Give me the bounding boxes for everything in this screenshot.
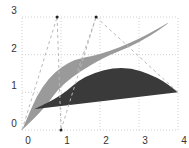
y-tick-label: 2 — [11, 43, 17, 54]
x-tick-label: 1 — [64, 135, 70, 146]
control-line — [22, 17, 57, 130]
y-axis-ticks: 0123 — [11, 5, 17, 129]
x-tick-label: 4 — [181, 135, 187, 146]
x-tick-label: 2 — [103, 135, 109, 146]
x-tick-label: 3 — [142, 135, 148, 146]
bezier-diagram: 01234 0123 — [0, 0, 189, 148]
y-tick-label: 3 — [11, 5, 17, 16]
y-tick-label: 1 — [11, 80, 17, 91]
control-point — [56, 16, 59, 19]
control-point — [60, 129, 63, 132]
y-tick-label: 0 — [11, 118, 17, 129]
x-tick-label: 0 — [25, 135, 31, 146]
x-axis-ticks: 01234 — [25, 135, 187, 146]
control-point — [95, 16, 98, 19]
